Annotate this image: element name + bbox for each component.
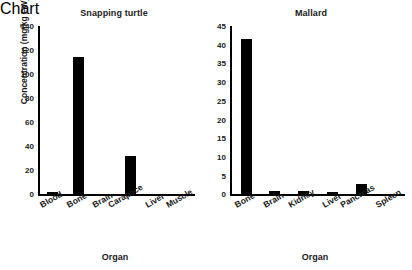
bar-cell: [261, 26, 290, 194]
x-axis-label-right: Organ: [200, 252, 412, 262]
y-tick-right-35: 35: [217, 59, 230, 68]
y-tick-right-40: 40: [217, 40, 230, 49]
y-tick-left-60: 60: [25, 118, 38, 127]
y-tick-right-25: 25: [217, 96, 230, 105]
bar-cell: [40, 26, 66, 194]
y-tick-left-120: 120: [21, 46, 38, 55]
bar-cell: [169, 26, 195, 194]
figure: Snapping turtle Concentration (mg/kg FW)…: [0, 0, 412, 270]
y-tick-right-30: 30: [217, 78, 230, 87]
bar-cell: [318, 26, 347, 194]
y-tick-right-15: 15: [217, 134, 230, 143]
bar-group-right: [232, 26, 405, 194]
y-tick-right-0: 0: [222, 190, 230, 199]
chart-title-right: Mallard: [200, 8, 412, 18]
x-tick-cell: Bone: [66, 196, 92, 252]
plot-area-right: BoneBrainKidneyLiverPancreasSpleen 05101…: [230, 26, 405, 196]
bar-right-bone: [241, 39, 252, 194]
y-tick-left-80: 80: [25, 94, 38, 103]
chart-panel-mallard: Mallard BoneBrainKidneyLiverPancreasSple…: [200, 0, 412, 270]
bar-cell: [232, 26, 261, 194]
x-tick-cell: Muscle: [169, 196, 195, 252]
y-tick-left-140: 140: [21, 22, 38, 31]
plot-area-left: BloodBoneBrainCarapaceLiverMuscle 020406…: [38, 26, 195, 196]
y-tick-left-0: 0: [30, 190, 38, 199]
x-tick-labels-right: BoneBrainKidneyLiverPancreasSpleen: [232, 196, 405, 252]
bar-group-left: [40, 26, 195, 194]
y-tick-right-45: 45: [217, 22, 230, 31]
bar-cell: [143, 26, 169, 194]
x-tick-cell: Kidney: [289, 196, 318, 252]
x-tick-cell: Carapace: [117, 196, 143, 252]
y-tick-left-100: 100: [21, 70, 38, 79]
x-tick-labels-left: BloodBoneBrainCarapaceLiverMuscle: [40, 196, 195, 252]
y-tick-left-20: 20: [25, 166, 38, 175]
x-tick-cell: Spleen: [376, 196, 405, 252]
x-tick-cell: Blood: [40, 196, 66, 252]
bar-cell: [347, 26, 376, 194]
x-axis-label-left: Organ: [0, 252, 200, 262]
chart-title-left: Snapping turtle: [0, 8, 200, 18]
bar-left-bone: [73, 57, 84, 194]
x-tick-cell: Pancreas: [347, 196, 376, 252]
x-tick-cell: Bone: [232, 196, 261, 252]
x-tick-cell: Brain: [261, 196, 290, 252]
bar-cell: [117, 26, 143, 194]
bar-cell: [66, 26, 92, 194]
bar-cell: [91, 26, 117, 194]
chart-panel-snapping-turtle: Snapping turtle Concentration (mg/kg FW)…: [0, 0, 200, 270]
y-tick-right-20: 20: [217, 115, 230, 124]
y-tick-right-10: 10: [217, 152, 230, 161]
y-tick-right-5: 5: [222, 171, 230, 180]
y-axis-label-left: Concentration (mg/kg FW): [19, 0, 29, 131]
y-tick-left-40: 40: [25, 142, 38, 151]
bar-cell: [376, 26, 405, 194]
bar-cell: [289, 26, 318, 194]
